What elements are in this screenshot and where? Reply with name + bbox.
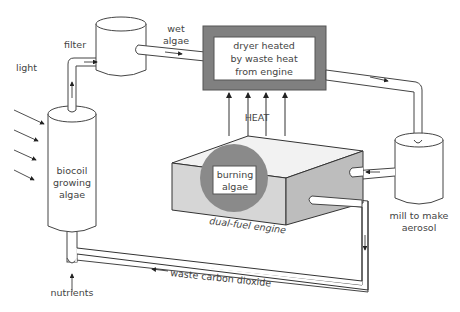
filter-pipe	[68, 58, 100, 112]
light-arrows	[14, 110, 44, 180]
biocoil-label-1: biocoil	[57, 165, 88, 176]
biocoil-label-3: algae	[59, 189, 85, 200]
heat-label: HEAT	[245, 112, 270, 123]
nutrients-label: nutrients	[51, 287, 94, 298]
wet-algae-label-1: wet	[167, 23, 185, 34]
dryer-label-3: from engine	[235, 66, 293, 77]
dryer-to-mill-pipe	[326, 70, 422, 143]
algae-fuel-diagram: light filter wet algae dryer heated by w…	[0, 0, 460, 312]
dryer-label-2: by waste heat	[230, 53, 297, 64]
engine-block	[172, 136, 363, 225]
biocoil-outlet	[67, 228, 77, 263]
filter-label: filter	[64, 39, 86, 50]
light-label: light	[16, 62, 37, 73]
dryer-label-1: dryer heated	[233, 40, 295, 51]
burning-label-2: algae	[222, 181, 248, 192]
mill-cylinder	[395, 133, 443, 204]
wet-algae-label-2: algae	[163, 35, 189, 46]
mill-label-2: aerosol	[402, 222, 437, 233]
mill-label-1: mill to make	[390, 210, 449, 221]
biocoil-label-2: growing	[53, 177, 91, 188]
burning-label-1: burning	[217, 169, 254, 180]
